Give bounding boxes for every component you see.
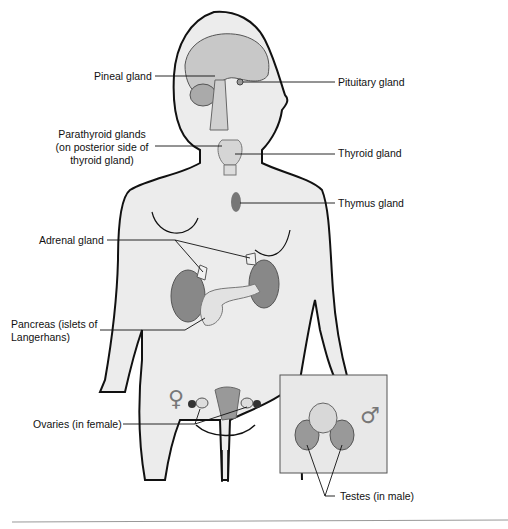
female-symbol-icon: ♀ <box>168 388 184 410</box>
label-parathyroid-2: (on posterior side of <box>52 141 152 153</box>
label-pancreas-2: Langerhans) <box>11 331 70 343</box>
label-ovaries: Ovaries (in female) <box>33 418 122 430</box>
thymus <box>231 192 241 212</box>
body-illustration <box>0 0 508 529</box>
label-parathyroid-3: thyroid gland) <box>52 154 152 166</box>
label-testes: Testes (in male) <box>340 490 414 502</box>
thyroid <box>218 140 242 165</box>
label-pancreas-1: Pancreas (islets of <box>11 318 97 330</box>
adrenal-right <box>246 253 256 265</box>
label-adrenal-gland: Adrenal gland <box>39 234 104 246</box>
bottom-rule <box>12 520 508 522</box>
label-thymus-gland: Thymus gland <box>338 197 404 209</box>
trachea <box>224 165 236 175</box>
label-parathyroid-1: Parathyroid glands <box>52 128 152 140</box>
ovary-left <box>196 398 208 408</box>
label-pineal-gland: Pineal gland <box>94 70 152 82</box>
label-pituitary-gland: Pituitary gland <box>338 76 405 88</box>
kidney-right <box>249 260 279 308</box>
ovary-right <box>241 398 253 408</box>
cerebellum <box>190 84 216 106</box>
male-symbol-icon: ♂ <box>360 405 380 427</box>
pituitary <box>237 79 243 85</box>
label-thyroid-gland: Thyroid gland <box>338 147 402 159</box>
